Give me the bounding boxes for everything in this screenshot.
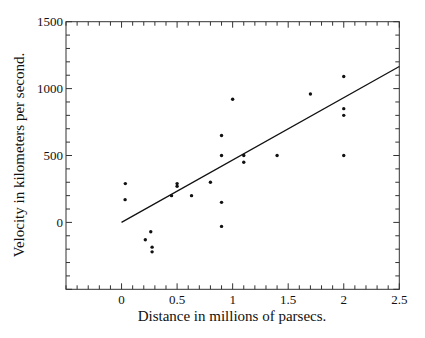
y-tick-label: 0 <box>57 215 64 230</box>
data-point <box>175 185 178 188</box>
data-point <box>342 154 345 157</box>
x-tick-label: 2 <box>341 292 348 307</box>
data-point <box>342 75 345 78</box>
y-tick-label: 1000 <box>37 81 63 96</box>
data-point <box>231 98 234 101</box>
data-point <box>275 154 278 157</box>
regression-line <box>122 67 400 223</box>
x-axis-label: Distance in millions of parsecs. <box>138 308 327 324</box>
data-point <box>220 134 223 137</box>
plot-frame <box>66 22 399 290</box>
data-point <box>309 92 312 95</box>
x-tick-label: 0 <box>118 292 125 307</box>
data-point <box>242 154 245 157</box>
data-point <box>170 194 173 197</box>
y-tick-labels: 050010001500 <box>37 14 63 230</box>
x-tick-labels: 00.511.522.5 <box>118 292 407 307</box>
data-point <box>149 230 152 233</box>
data-point <box>342 107 345 110</box>
data-point <box>144 238 147 241</box>
y-tick-label: 500 <box>44 148 64 163</box>
data-point <box>190 194 193 197</box>
fit-line <box>122 67 400 223</box>
x-tick-label: 2.5 <box>391 292 407 307</box>
x-tick-label: 1.5 <box>280 292 296 307</box>
x-tick-label: 1 <box>229 292 236 307</box>
data-point <box>209 181 212 184</box>
y-tick-label: 1500 <box>37 14 63 29</box>
data-point <box>342 114 345 117</box>
axis-ticks <box>66 22 399 290</box>
data-points <box>123 75 345 254</box>
data-point <box>220 154 223 157</box>
data-point <box>220 201 223 204</box>
data-point <box>123 198 126 201</box>
data-point <box>242 160 245 163</box>
data-point <box>220 225 223 228</box>
x-tick-label: 0.5 <box>169 292 185 307</box>
data-point <box>124 182 127 185</box>
hubble-scatter-chart: 00.511.522.5 050010001500 Distance in mi… <box>0 0 425 338</box>
y-axis-label: Velocity in kilometers per second. <box>11 53 27 258</box>
data-point <box>150 250 153 253</box>
data-point <box>150 245 153 248</box>
